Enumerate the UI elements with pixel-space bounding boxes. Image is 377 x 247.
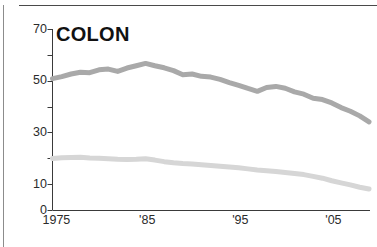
y-axis-tick-label: 70 bbox=[21, 23, 47, 36]
y-axis-tick-label: 10 bbox=[21, 178, 47, 191]
y-axis-tick-label: 50 bbox=[21, 74, 47, 87]
chart-title: COLON bbox=[56, 24, 130, 44]
x-axis-tick-label: '85 bbox=[139, 214, 155, 227]
y-axis-major-ticks bbox=[48, 30, 53, 211]
x-axis-tick-label: 1975 bbox=[43, 214, 71, 227]
y-axis-tick-label: 30 bbox=[21, 126, 47, 139]
y-axis-minor-ticks bbox=[48, 56, 53, 159]
series-line-incidence bbox=[53, 63, 370, 121]
series-line-mortality bbox=[53, 157, 370, 189]
x-axis-tick-label: '05 bbox=[325, 214, 341, 227]
chart-series-group bbox=[53, 63, 370, 189]
x-axis-tick-label: '95 bbox=[232, 214, 248, 227]
chart-axes bbox=[48, 29, 371, 211]
chart-figure: COLON 010305070 1975'85'95'05 bbox=[0, 0, 377, 247]
